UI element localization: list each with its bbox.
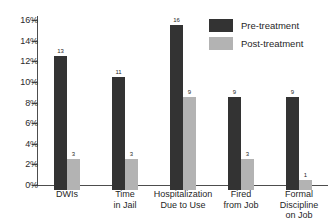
bar-value-label: 9 — [286, 89, 299, 95]
bar — [170, 25, 183, 190]
bar — [228, 97, 241, 190]
legend-item-label: Post-treatment — [241, 39, 303, 49]
y-axis-tick-label: 10% — [8, 78, 38, 87]
y-axis-tick-label: 4% — [8, 140, 38, 149]
bar-value-label: 13 — [54, 48, 67, 54]
bar — [112, 77, 125, 190]
chart-legend: Pre-treatment Post-treatment — [209, 19, 303, 55]
legend-item: Post-treatment — [209, 37, 303, 50]
x-axis-category-label: FormalDisciplineon Job — [256, 189, 332, 221]
bar-value-label: 16 — [170, 17, 183, 23]
bar-value-label: 3 — [125, 151, 138, 157]
bar-value-label: 11 — [112, 69, 125, 75]
y-axis-tick-label: 16% — [8, 16, 38, 25]
legend-swatch-icon — [209, 19, 233, 32]
bar — [183, 97, 196, 190]
y-axis-tick-label: 12% — [8, 57, 38, 66]
y-axis-tick-label: 14% — [8, 37, 38, 46]
bar-value-label: 3 — [67, 151, 80, 157]
y-axis-tick-label: 8% — [8, 99, 38, 108]
bar-value-label: 1 — [299, 172, 312, 178]
bar-group: 113 — [112, 12, 138, 190]
bar-value-label: 9 — [228, 89, 241, 95]
bar-group: 133 — [54, 12, 80, 190]
bar-value-label: 3 — [241, 151, 254, 157]
legend-item: Pre-treatment — [209, 19, 303, 32]
category-label-line: on Job — [256, 210, 332, 221]
legend-swatch-icon — [209, 37, 233, 50]
bar — [286, 97, 299, 190]
bar-value-label: 9 — [183, 89, 196, 95]
category-label-line: Formal — [256, 189, 332, 200]
category-label-line: Discipline — [256, 200, 332, 211]
bar — [125, 159, 138, 190]
y-axis-tick-label: 6% — [8, 119, 38, 128]
bar-group: 169 — [170, 12, 196, 190]
y-axis-tick-label: 2% — [8, 160, 38, 169]
bar — [67, 159, 80, 190]
bar — [54, 56, 67, 190]
bar-chart: 16%14%12%10%8%6%4%2%0% 1331131699391 DWI… — [0, 0, 332, 223]
legend-item-label: Pre-treatment — [241, 21, 299, 31]
bar — [241, 159, 254, 190]
